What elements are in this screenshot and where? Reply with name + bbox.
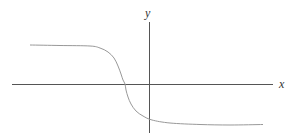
y-axis-label: y: [144, 6, 151, 20]
chart: y x: [0, 0, 298, 138]
x-axis-label: x: [278, 77, 285, 91]
